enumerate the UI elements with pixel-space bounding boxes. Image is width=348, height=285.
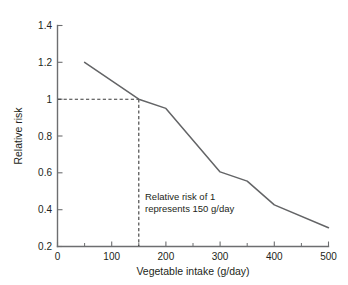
relative-risk-vegetable-intake-chart: 1.4 1.2 1 0.8 0.6 0.4 0.2 0 100 200 300 …	[0, 0, 348, 285]
reference-note-line-2: represents 150 g/day	[145, 203, 235, 214]
x-tick-label-300: 300	[212, 251, 229, 262]
x-tick-label-200: 200	[158, 251, 175, 262]
chart-background	[0, 0, 348, 285]
y-tick-label-0.6: 0.6	[38, 167, 52, 178]
x-tick-label-500: 500	[320, 251, 337, 262]
y-axis-title: Relative risk	[12, 107, 24, 165]
x-tick-label-100: 100	[103, 251, 120, 262]
y-tick-label-1.2: 1.2	[38, 57, 52, 68]
chart-canvas: 1.4 1.2 1 0.8 0.6 0.4 0.2 0 100 200 300 …	[0, 0, 348, 285]
y-tick-label-1: 1	[46, 94, 52, 105]
x-tick-label-0: 0	[55, 251, 61, 262]
x-tick-label-400: 400	[266, 251, 283, 262]
y-tick-label-0.8: 0.8	[38, 131, 52, 142]
x-axis-title: Vegetable intake (g/day)	[136, 265, 249, 277]
y-tick-label-0.2: 0.2	[38, 241, 52, 252]
reference-note-line-1: Relative risk of 1	[145, 191, 215, 202]
y-tick-label-0.4: 0.4	[38, 204, 52, 215]
y-tick-label-1.4: 1.4	[38, 20, 52, 31]
